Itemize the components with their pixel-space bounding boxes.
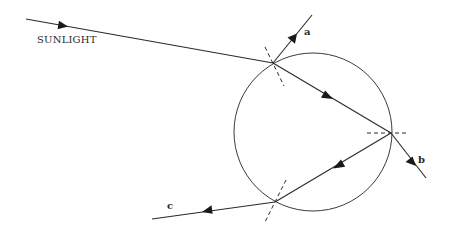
label-ray-b: b [418, 155, 425, 165]
arrow-icon-ray-b [406, 157, 417, 167]
arrow-icon-sunlight [58, 21, 69, 29]
arrow-icon-internal-1 [321, 91, 333, 100]
label-sunlight: SUNLIGHT [37, 35, 97, 45]
water-droplet [234, 53, 392, 211]
arrow-icon-ray-c [202, 205, 213, 213]
label-ray-a: a [304, 27, 310, 37]
raindrop-diagram: SUNLIGHT a b c [0, 0, 450, 235]
normal-line-exit [265, 180, 286, 222]
ray-internal-reflection [275, 133, 391, 202]
arrow-icon-ray-a [288, 34, 298, 44]
label-ray-c: c [167, 201, 173, 211]
